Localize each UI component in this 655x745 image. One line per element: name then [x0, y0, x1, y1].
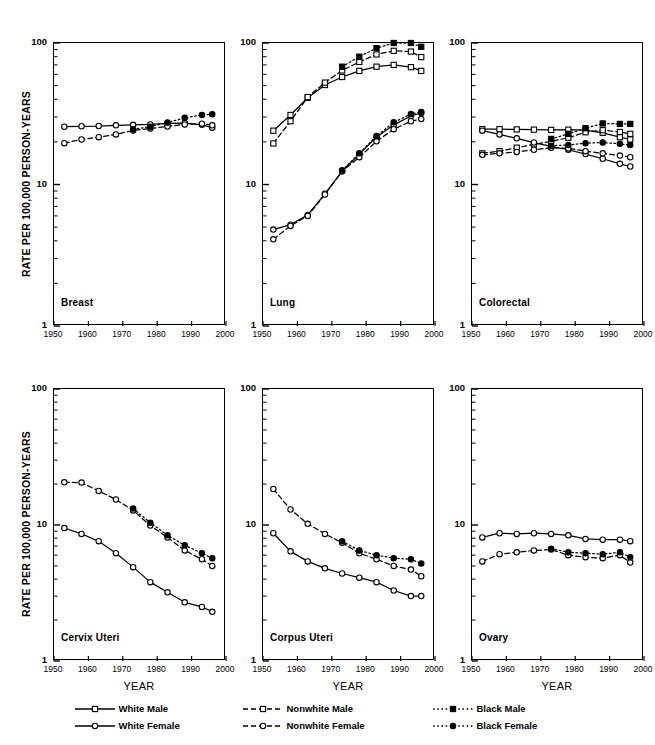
series-white-female: [480, 531, 633, 544]
y-axis-tick-label: 100: [230, 36, 256, 47]
x-axis-tick-label: 1990: [593, 329, 625, 339]
x-axis-label: YEAR: [262, 680, 434, 692]
plot-area: [471, 42, 643, 325]
y-axis-tick-label: 100: [21, 36, 47, 47]
series-nonwhite-male: [480, 128, 633, 156]
legend-swatch-icon: [74, 720, 116, 732]
plot-area: [53, 388, 225, 660]
series-nonwhite-female: [62, 480, 215, 569]
legend-item-white-male: White Male: [74, 703, 242, 715]
x-axis-tick-label: 1980: [349, 329, 381, 339]
plot-area: [262, 42, 434, 325]
plot-area: [471, 388, 643, 660]
x-axis-tick-label: 2000: [209, 664, 241, 674]
panel-title: Cervix Uteri: [61, 632, 120, 643]
series-white-male: [271, 62, 424, 133]
y-axis-label: RATE PER 100,000 PERSON-YEARS: [20, 431, 32, 617]
x-axis-tick-label: 1990: [384, 664, 416, 674]
panel-title: Breast: [61, 297, 93, 308]
legend-label: Black Male: [477, 703, 526, 714]
series-black-female: [130, 506, 215, 561]
legend-label: White Female: [119, 720, 180, 731]
x-axis-tick-label: 1960: [280, 329, 312, 339]
panel-title: Colorectal: [479, 297, 530, 308]
cancer-mortality-figure: 100101195019601970198019902000Breast1001…: [0, 0, 655, 745]
legend-item-nonwhite-female: Nonwhite Female: [242, 720, 432, 732]
legend-item-black-male: Black Male: [432, 703, 582, 715]
legend-label: Black Female: [477, 720, 538, 731]
x-axis-tick-label: 1980: [558, 329, 590, 339]
x-axis-tick-label: 1950: [455, 329, 487, 339]
legend-swatch-icon: [432, 720, 474, 732]
x-axis-tick-label: 1970: [315, 664, 347, 674]
x-axis-tick-label: 1990: [384, 329, 416, 339]
x-axis-tick-label: 1990: [175, 664, 207, 674]
legend-swatch-icon: [242, 703, 284, 715]
x-axis-tick-label: 1960: [71, 329, 103, 339]
x-axis-tick-label: 1970: [106, 664, 138, 674]
series-white-female: [62, 525, 215, 614]
x-axis-tick-label: 1960: [280, 664, 312, 674]
series-white-female: [271, 110, 424, 232]
x-axis-tick-label: 1960: [71, 664, 103, 674]
legend-item-white-female: White Female: [74, 720, 242, 732]
x-axis-tick-label: 1950: [246, 329, 278, 339]
x-axis-tick-label: 1990: [593, 664, 625, 674]
x-axis-tick-label: 1970: [524, 664, 556, 674]
x-axis-tick-label: 1980: [558, 664, 590, 674]
y-axis-tick-label: 10: [230, 178, 256, 189]
y-axis-tick-label: 10: [439, 178, 465, 189]
x-axis-tick-label: 1990: [175, 329, 207, 339]
legend-item-black-female: Black Female: [432, 720, 582, 732]
x-axis-tick-label: 1950: [37, 664, 69, 674]
panel-title: Ovary: [479, 632, 508, 643]
legend-swatch-icon: [242, 720, 284, 732]
x-axis-tick-label: 1960: [489, 664, 521, 674]
series-nonwhite-female: [271, 486, 424, 579]
y-axis-tick-label: 100: [439, 382, 465, 393]
x-axis-tick-label: 1950: [246, 664, 278, 674]
y-axis-tick-label: 10: [230, 518, 256, 529]
panel-title: Lung: [270, 297, 295, 308]
plot-area: [53, 42, 225, 325]
figure-legend: White MaleNonwhite MaleBlack Male White …: [0, 700, 655, 734]
x-axis-tick-label: 1950: [37, 329, 69, 339]
series-black-female: [339, 539, 424, 567]
legend-label: White Male: [119, 703, 169, 714]
series-black-female: [548, 140, 633, 149]
y-axis-label: RATE PER 100,000 PERSON-YEARS: [20, 91, 32, 277]
x-axis-tick-label: 1960: [489, 329, 521, 339]
legend-item-nonwhite-male: Nonwhite Male: [242, 703, 432, 715]
legend-label: Nonwhite Male: [287, 703, 354, 714]
x-axis-tick-label: 1980: [349, 664, 381, 674]
x-axis-label: YEAR: [471, 680, 643, 692]
x-axis-tick-label: 1970: [106, 329, 138, 339]
legend-swatch-icon: [74, 703, 116, 715]
x-axis-tick-label: 1970: [524, 329, 556, 339]
x-axis-tick-label: 2000: [627, 329, 655, 339]
legend-label: Nonwhite Female: [287, 720, 365, 731]
x-axis-tick-label: 2000: [627, 664, 655, 674]
x-axis-tick-label: 1950: [455, 664, 487, 674]
panel-title: Corpus Uteri: [270, 632, 333, 643]
plot-area: [262, 388, 434, 660]
x-axis-tick-label: 2000: [418, 664, 450, 674]
x-axis-tick-label: 2000: [418, 329, 450, 339]
y-axis-tick-label: 100: [21, 382, 47, 393]
x-axis-tick-label: 2000: [209, 329, 241, 339]
series-white-female: [271, 531, 424, 599]
x-axis-tick-label: 1980: [140, 664, 172, 674]
x-axis-tick-label: 1970: [315, 329, 347, 339]
legend-swatch-icon: [432, 703, 474, 715]
x-axis-label: YEAR: [53, 680, 225, 692]
y-axis-tick-label: 100: [230, 382, 256, 393]
y-axis-tick-label: 10: [439, 518, 465, 529]
x-axis-tick-label: 1980: [140, 329, 172, 339]
y-axis-tick-label: 100: [439, 36, 465, 47]
series-nonwhite-male: [271, 48, 424, 146]
